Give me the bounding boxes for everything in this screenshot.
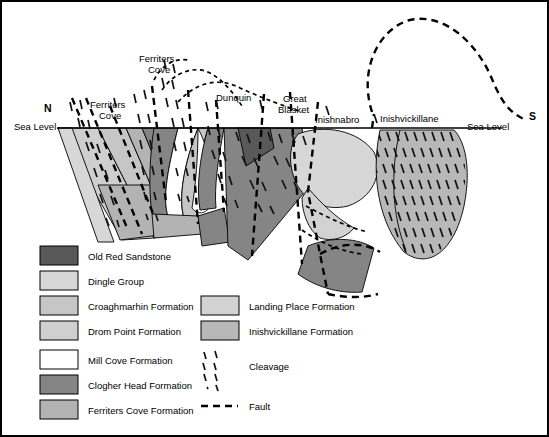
label-south: S	[529, 110, 536, 122]
legend-swatch-clogher-head-formation[interactable]	[40, 375, 78, 394]
legend-swatch-ferriters-cove-formation[interactable]	[40, 400, 78, 419]
legend-swatch-old-red-sandstone[interactable]	[40, 246, 78, 265]
dunquin-belt-units	[224, 128, 378, 292]
legend-label-mill-cove-formation: Mill Cove Formation	[88, 355, 172, 366]
legend-label-old-red-sandstone: Old Red Sandstone	[88, 251, 171, 262]
fault-major-arc-right	[368, 19, 526, 120]
label-ferriters-cove-1-line1: Ferriters	[90, 99, 126, 110]
section-labels: N Sea Level S Sea Level Ferriters Cove F…	[14, 53, 536, 132]
fault-lower-dunquin-base	[328, 294, 378, 297]
legend-label-ferriters-cove-formation: Ferriters Cove Formation	[88, 405, 194, 416]
legend-label-croaghmarhin-formation: Croaghmarhin Formation	[88, 301, 194, 312]
label-ferriters-cove-1-line2: Cove	[99, 110, 121, 121]
label-sea-level-left: Sea Level	[14, 121, 56, 132]
legend-label-cleavage: Cleavage	[249, 361, 289, 372]
label-inishvickillane: Inishvickillane	[380, 113, 439, 124]
unit-ferriters-cove-fold-base	[152, 214, 202, 238]
legend-swatch-drom-point-formation[interactable]	[40, 321, 78, 340]
legend-cleavage-icon	[203, 351, 218, 391]
geological-cross-section-figure: N Sea Level S Sea Level Ferriters Cove F…	[0, 0, 549, 437]
central-fold-units	[150, 128, 230, 246]
legend-swatch-landing-place-formation[interactable]	[201, 296, 239, 315]
legend-label-landing-place-formation: Landing Place Formation	[249, 301, 355, 312]
legend-label-clogher-head-formation: Clogher Head Formation	[88, 380, 192, 391]
label-great-blasket-line2: Blasket	[278, 104, 310, 115]
label-inishnabro: Inishnabro	[315, 114, 359, 125]
label-ferriters-cove-2-line2: Cove	[148, 64, 170, 75]
label-sea-level-right: Sea Level	[467, 121, 509, 132]
legend-label-drom-point-formation: Drom Point Formation	[88, 326, 181, 337]
legend-swatch-croaghmarhin-formation[interactable]	[40, 296, 78, 315]
legend-label-fault: Fault	[249, 401, 270, 412]
legend-swatch-inishvickillane-formation[interactable]	[201, 321, 239, 340]
cross-section-canvas: N Sea Level S Sea Level Ferriters Cove F…	[2, 2, 549, 437]
legend-swatch-dingle-group[interactable]	[40, 271, 78, 290]
legend-label-inishvickillane-formation: Inishvickillane Formation	[249, 326, 353, 337]
legend-label-dingle-group: Dingle Group	[88, 276, 144, 287]
label-north: N	[44, 102, 52, 114]
unit-clogher-head-fold-base	[198, 208, 230, 246]
legend-swatch-mill-cove-formation[interactable]	[40, 350, 78, 369]
label-great-blasket-line1: Great	[283, 93, 307, 104]
label-ferriters-cove-2-line1: Ferriters	[139, 53, 175, 64]
fault-arc-root	[372, 114, 374, 128]
label-dunquin: Dunquin	[216, 92, 251, 103]
